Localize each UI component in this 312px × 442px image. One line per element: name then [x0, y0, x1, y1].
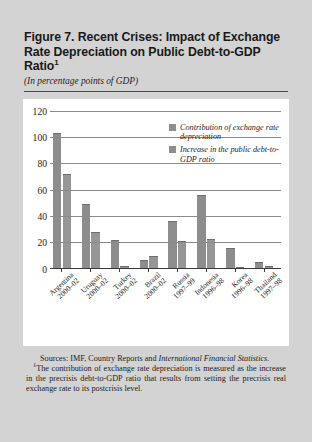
gridline	[50, 190, 281, 191]
bar	[168, 221, 176, 268]
figure-card: Figure 7. Recent Crises: Impact of Excha…	[14, 22, 298, 426]
y-tick-label: 60	[37, 184, 47, 195]
x-tick-label: Uruguay2000–02	[80, 271, 111, 301]
x-tick-label: Indonesia1996–98	[193, 271, 226, 303]
x-tick-label: Argentina2000–02	[48, 271, 82, 304]
y-tick-label: 0	[42, 263, 47, 274]
chart-legend: Contribution of exchange rate depreciati…	[169, 123, 287, 167]
bar	[63, 174, 71, 269]
figure-title-footnote-marker: 1	[54, 58, 58, 67]
legend-item-0: Contribution of exchange rate depreciati…	[169, 123, 287, 142]
figure-notes: Sources: IMF, Country Reports and Intern…	[26, 354, 286, 395]
x-axis-labels: Argentina2000–02Uruguay2000–02Turkey2000…	[50, 271, 281, 341]
x-tick-label: Russia1997–99	[166, 271, 197, 301]
x-tick-label: Thailand1997–98	[253, 271, 284, 302]
legend-item-1: Increase in the public debt-to-GDP ratio	[169, 145, 287, 164]
legend-label: Increase in the public debt-to-GDP ratio	[180, 145, 287, 164]
figure-title-text: Figure 7. Recent Crises: Impact of Excha…	[24, 30, 280, 73]
y-axis-labels: 020406080100120	[23, 111, 47, 269]
sources-italic: International Financial Statistics.	[159, 354, 270, 363]
sources-text: IMF, Country Reports and	[70, 354, 156, 363]
figure-page: Figure 7. Recent Crises: Impact of Excha…	[0, 0, 312, 442]
x-tick-label: Turkey2000–02	[109, 271, 140, 301]
title-divider	[24, 91, 288, 92]
x-axis-line	[50, 268, 281, 269]
bar	[197, 195, 205, 269]
x-tick-label: Brazil2000–02	[138, 271, 169, 301]
legend-label: Contribution of exchange rate depreciati…	[180, 123, 287, 142]
figure-subtitle: (In percentage points of GDP)	[24, 76, 288, 86]
bar	[91, 232, 99, 269]
y-tick-label: 20	[37, 237, 47, 248]
legend-swatch-icon	[169, 146, 176, 153]
gridline	[50, 216, 281, 217]
figure-title: Figure 7. Recent Crises: Impact of Excha…	[24, 30, 288, 74]
gridline	[50, 242, 281, 243]
bar	[226, 248, 234, 269]
bar	[82, 204, 90, 269]
y-tick-label: 40	[37, 211, 47, 222]
bar	[111, 240, 119, 269]
sources-line: Sources: IMF, Country Reports and Intern…	[26, 354, 286, 364]
x-tick-label: Korea1996–98	[224, 271, 255, 301]
y-tick-label: 80	[37, 158, 47, 169]
chart-area: 020406080100120 Argentina2000–02Uruguay2…	[23, 99, 289, 346]
y-tick-label: 100	[33, 132, 47, 143]
footnote-line: 1The contribution of exchange rate depre…	[26, 364, 286, 395]
gridline	[50, 111, 281, 112]
y-tick-label: 120	[33, 105, 47, 116]
footnote-text: The contribution of exchange rate deprec…	[26, 364, 286, 393]
bar	[178, 241, 186, 269]
sources-label: Sources:	[40, 354, 68, 363]
bar	[53, 133, 61, 269]
legend-swatch-icon	[169, 124, 176, 131]
